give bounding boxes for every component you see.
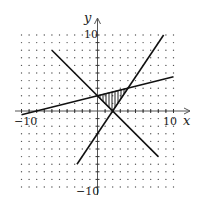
- y-max-label: 10: [84, 28, 98, 41]
- y-min-label: −10: [76, 185, 99, 198]
- axes: [15, 18, 190, 195]
- coordinate-plane: x y −10 10 −10 10: [0, 0, 201, 202]
- graph: x y −10 10 −10 10: [0, 0, 201, 202]
- x-axis-label: x: [183, 113, 191, 128]
- y-axis-label: y: [83, 10, 92, 25]
- x-max-label: 10: [163, 115, 177, 128]
- line-steep: [77, 35, 164, 164]
- x-min-label: −10: [14, 115, 37, 128]
